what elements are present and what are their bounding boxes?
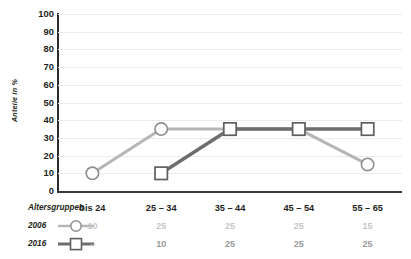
cell-agegroup-3: 45 – 54: [260, 199, 338, 217]
cell-2016-4: 25: [329, 235, 407, 253]
line-chart: Anteile in % 1009080706050403020100 Alte…: [0, 0, 411, 259]
data-point-2016-25 – 34: [155, 167, 167, 179]
cell-2006-3: 25: [260, 217, 338, 235]
y-axis-tick-labels: 1009080706050403020100: [20, 0, 54, 196]
cell-2006-0: 10: [53, 217, 131, 235]
cell-agegroup-0: bis 24: [53, 199, 131, 217]
series-layer: [58, 14, 402, 191]
cell-agegroup-2: 35 – 44: [191, 199, 269, 217]
data-point-2016-45 – 54: [293, 123, 305, 135]
cell-agegroup-4: 55 – 65: [329, 199, 407, 217]
y-tick-70: 70: [20, 62, 54, 71]
y-axis-label: Anteile in %: [10, 61, 19, 141]
row-label-2016: 2016: [28, 235, 54, 253]
y-tick-50: 50: [20, 98, 54, 107]
y-tick-60: 60: [20, 80, 54, 89]
y-tick-20: 20: [20, 151, 54, 160]
cell-2016-3: 25: [260, 235, 338, 253]
data-point-2016-55 – 65: [361, 123, 373, 135]
series-line-2016: [161, 129, 367, 173]
data-table: Altersgruppen bis 2425 – 3435 – 4445 – 5…: [0, 199, 411, 259]
table-row-agegroups: Altersgruppen bis 2425 – 3435 – 4445 – 5…: [0, 199, 411, 217]
plot-area: [58, 14, 402, 191]
cell-2016-0: –: [53, 235, 131, 253]
row-label-2006: 2006: [28, 217, 54, 235]
y-tick-90: 90: [20, 27, 54, 36]
y-tick-100: 100: [20, 9, 54, 18]
cell-2006-1: 25: [122, 217, 200, 235]
table-row-2016: 2016 –10252525: [0, 235, 411, 253]
y-tick-0: 0: [20, 186, 54, 195]
y-tick-80: 80: [20, 45, 54, 54]
data-point-2006-bis 24: [86, 167, 98, 179]
data-point-2006-25 – 34: [155, 123, 167, 135]
table-row-2006: 2006 1025252515: [0, 217, 411, 235]
cell-agegroup-1: 25 – 34: [122, 199, 200, 217]
cell-2006-2: 25: [191, 217, 269, 235]
y-tick-10: 10: [20, 169, 54, 178]
y-tick-40: 40: [20, 115, 54, 124]
cell-2016-1: 10: [122, 235, 200, 253]
cell-2006-4: 15: [329, 217, 407, 235]
y-tick-30: 30: [20, 133, 54, 142]
data-point-2006-55 – 65: [361, 158, 373, 170]
cell-2016-2: 25: [191, 235, 269, 253]
x-axis-line: [57, 191, 402, 193]
data-point-2016-35 – 44: [224, 123, 236, 135]
